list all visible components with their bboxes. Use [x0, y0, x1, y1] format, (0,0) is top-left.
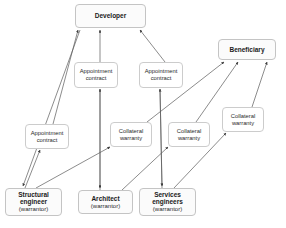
label-appointment-contract-2[interactable]: Appointment contract — [139, 62, 183, 88]
label-appointment-contract-3-line1: Appointment — [31, 130, 64, 137]
edge-developer-to-structural — [23, 30, 80, 186]
label-appointment-contract-3[interactable]: Appointment contract — [25, 124, 69, 149]
edge-services-to-developer-lower — [160, 89, 162, 188]
node-structural-engineer-label-1: Structural — [18, 191, 49, 198]
label-appointment-contract-3-line2: contract — [37, 137, 58, 144]
label-collateral-warranty-1[interactable]: Collateral warranty — [110, 122, 152, 147]
label-appointment-contract-1-line1: Appointment — [80, 68, 113, 75]
node-structural-engineer[interactable]: Structural engineer (warrantor) — [5, 188, 62, 216]
edge-structural-to-beneficiary-lower — [36, 147, 110, 188]
node-architect-label: Architect — [91, 195, 119, 202]
label-appointment-contract-2-line1: Appointment — [145, 68, 178, 75]
edge-architect-to-beneficiary-lower — [122, 147, 168, 190]
label-appointment-contract-1[interactable]: Appointment contract — [74, 62, 118, 88]
node-developer[interactable]: Developer — [75, 4, 146, 28]
node-beneficiary[interactable]: Beneficiary — [218, 39, 276, 60]
label-collateral-warranty-3[interactable]: Collateral warranty — [222, 107, 264, 132]
label-collateral-warranty-3-line1: Collateral — [231, 113, 256, 120]
label-collateral-warranty-2-line2: warranty — [178, 135, 200, 142]
node-developer-label: Developer — [95, 12, 126, 19]
label-collateral-warranty-2-line1: Collateral — [177, 128, 202, 135]
node-architect-role: (warrantor) — [91, 203, 120, 210]
label-collateral-warranty-3-line2: warranty — [232, 120, 254, 127]
diagram-canvas: Developer Beneficiary Structural enginee… — [0, 0, 286, 228]
edge-services-to-developer-upper — [140, 30, 165, 62]
node-structural-engineer-role: (warrantor) — [19, 206, 48, 213]
label-appointment-contract-1-line2: contract — [86, 75, 107, 82]
node-beneficiary-label: Beneficiary — [229, 46, 264, 53]
label-collateral-warranty-1-line1: Collateral — [119, 128, 144, 135]
node-services-engineers[interactable]: Services engineers (warrantor) — [139, 188, 196, 216]
node-services-engineers-role: (warrantor) — [153, 206, 182, 213]
edge-services-to-beneficiary-upper — [252, 62, 267, 107]
label-collateral-warranty-1-line2: warranty — [120, 135, 142, 142]
node-architect[interactable]: Architect (warrantor) — [78, 190, 133, 214]
node-services-engineers-label-2: engineers — [152, 198, 183, 205]
node-structural-engineer-label-2: engineer — [20, 198, 47, 205]
label-collateral-warranty-2[interactable]: Collateral warranty — [168, 122, 210, 147]
edge-structural-to-developer-lower — [25, 150, 40, 188]
node-services-engineers-label-1: Services — [154, 191, 181, 198]
label-appointment-contract-2-line2: contract — [151, 75, 172, 82]
edge-developer-to-services — [160, 89, 162, 186]
